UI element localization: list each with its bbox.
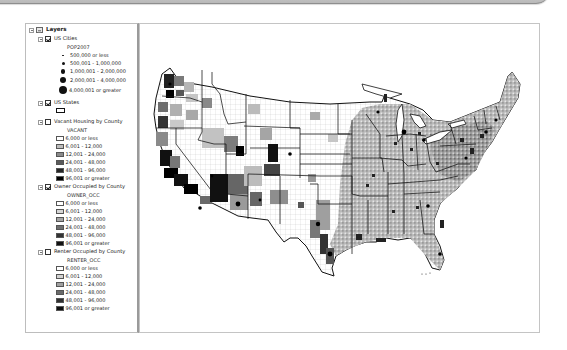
legend-class: 48,001 - 96,000 bbox=[56, 168, 105, 173]
legend-class: 4,000,001 or greater bbox=[57, 86, 121, 94]
field-name: VACANT bbox=[67, 128, 87, 133]
toc-layer-us-states[interactable]: US States bbox=[38, 100, 79, 106]
legend-class: 96,001 or greater bbox=[56, 176, 110, 181]
class-swatch bbox=[56, 306, 64, 311]
toc-root-layers[interactable]: Layers bbox=[29, 27, 67, 33]
legend-class: 96,001 or greater bbox=[56, 241, 110, 246]
legend-class: 96,001 or greater bbox=[56, 306, 110, 311]
class-swatch bbox=[56, 217, 64, 222]
class-swatch bbox=[56, 274, 64, 279]
class-swatch bbox=[56, 136, 64, 141]
city-point-icon bbox=[62, 62, 65, 65]
field-name: RENTER_OCC bbox=[67, 258, 100, 263]
toc-root-label: Layers bbox=[46, 27, 67, 33]
class-swatch bbox=[56, 290, 64, 295]
layer-name: US Cities bbox=[54, 36, 77, 41]
field-name: POP2007 bbox=[67, 45, 90, 50]
legend-class: 6,000 or less bbox=[56, 136, 98, 141]
eastern-counties bbox=[330, 72, 520, 270]
layer-visibility-checkbox[interactable] bbox=[45, 184, 51, 190]
layer-visibility-checkbox[interactable] bbox=[45, 36, 51, 42]
state-polygon-swatch bbox=[56, 108, 65, 113]
layer-name: Owner Occupied by County bbox=[54, 184, 125, 189]
legend-class: 6,000 or less bbox=[56, 266, 98, 271]
legend-class: 12,001 - 24,000 bbox=[56, 282, 105, 287]
class-swatch bbox=[56, 160, 64, 165]
class-swatch bbox=[56, 298, 64, 303]
layer-visibility-checkbox[interactable] bbox=[45, 119, 51, 125]
class-swatch bbox=[56, 168, 64, 173]
legend-class: 6,001 - 12,000 bbox=[56, 209, 102, 214]
class-swatch bbox=[56, 233, 64, 238]
city-point-icon bbox=[60, 77, 66, 83]
city-point-icon bbox=[59, 86, 67, 94]
legend-class: 48,001 - 96,000 bbox=[56, 298, 105, 303]
layer-name: Renter Occupied by County bbox=[54, 249, 125, 254]
class-swatch bbox=[56, 176, 64, 181]
legend-class: 24,001 - 48,000 bbox=[56, 225, 105, 230]
layer-visibility-checkbox[interactable] bbox=[45, 249, 51, 255]
collapse-icon[interactable] bbox=[38, 101, 43, 106]
legend-class: 24,001 - 48,000 bbox=[56, 290, 105, 295]
class-swatch bbox=[56, 152, 64, 157]
toc-layer-owner-occupied[interactable]: Owner Occupied by County bbox=[38, 184, 125, 190]
class-swatch bbox=[56, 241, 64, 246]
class-swatch bbox=[56, 225, 64, 230]
class-swatch bbox=[56, 201, 64, 206]
legend-class: 6,001 - 12,000 bbox=[56, 144, 102, 149]
legend-class: 1,000,001 - 2,000,000 bbox=[58, 69, 126, 74]
collapse-icon[interactable] bbox=[38, 120, 43, 125]
class-swatch bbox=[56, 144, 64, 149]
toc-layer-us-cities[interactable]: US Cities bbox=[38, 36, 77, 42]
legend-class: 12,001 - 24,000 bbox=[56, 217, 105, 222]
layers-icon bbox=[36, 27, 43, 33]
collapse-icon[interactable] bbox=[38, 37, 43, 42]
layer-name: US States bbox=[54, 100, 79, 105]
layer-visibility-checkbox[interactable] bbox=[45, 100, 51, 106]
florida-keys bbox=[421, 272, 430, 274]
toc-layer-vacant-housing[interactable]: Vacant Housing by County bbox=[38, 119, 123, 125]
toc-layer-renter-occupied[interactable]: Renter Occupied by County bbox=[38, 249, 125, 255]
legend-class: 12,001 - 24,000 bbox=[56, 152, 105, 157]
field-name: OWNER_OCC bbox=[67, 193, 100, 198]
legend-class: 2,000,001 - 4,000,000 bbox=[58, 77, 126, 83]
legend-class: 500,001 - 1,000,000 bbox=[58, 61, 121, 66]
window-top-bar bbox=[0, 0, 550, 4]
city-point-icon bbox=[61, 69, 66, 74]
class-swatch bbox=[56, 266, 64, 271]
legend-class: 24,001 - 48,000 bbox=[56, 160, 105, 165]
legend-class: 6,000 or less bbox=[56, 201, 98, 206]
collapse-icon[interactable] bbox=[29, 28, 34, 33]
collapse-icon[interactable] bbox=[38, 250, 43, 255]
table-of-contents: Layers US Cities POP2007 500,000 or less… bbox=[25, 23, 139, 333]
legend-class: 48,001 - 96,000 bbox=[56, 233, 105, 238]
collapse-icon[interactable] bbox=[38, 185, 43, 190]
class-swatch bbox=[56, 209, 64, 214]
map-display[interactable] bbox=[139, 23, 540, 333]
legend-class: 6,001 - 12,000 bbox=[56, 274, 102, 279]
layer-name: Vacant Housing by County bbox=[54, 119, 123, 124]
us-map[interactable] bbox=[140, 24, 540, 333]
class-swatch bbox=[56, 282, 64, 287]
legend-class: 500,000 or less bbox=[58, 53, 109, 58]
city-point-icon bbox=[62, 55, 64, 57]
